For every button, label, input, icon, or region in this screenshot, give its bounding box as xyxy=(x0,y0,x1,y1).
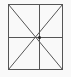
square-grid-diagram xyxy=(0,0,71,77)
center-dot xyxy=(38,36,41,39)
